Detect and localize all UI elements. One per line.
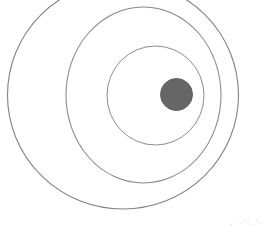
concentric-circles-figure: Concentric circles diagram [0, 0, 264, 234]
center-dot [161, 79, 193, 111]
diagram-canvas: Concentric circles diagram [0, 0, 264, 234]
figure-background [0, 0, 264, 234]
